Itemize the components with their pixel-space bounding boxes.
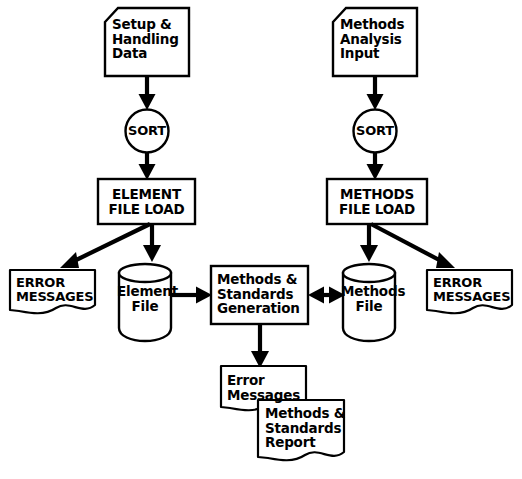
arrowhead-element-file-to-generation <box>196 287 212 304</box>
edge-methods-file-load-to-error-messages-right <box>371 224 443 262</box>
shape-sort-left <box>126 110 169 153</box>
arrowhead-methods-file-load-to-error-messages-right <box>436 252 455 268</box>
arrowhead-input-to-sort-right <box>367 94 384 110</box>
shape-methods-standards-generation <box>211 266 308 324</box>
shape-methods-file-load <box>327 179 427 224</box>
shape-element-file-cylinder-top <box>119 264 171 282</box>
arrowhead-generation-to-methods-file-left <box>308 287 324 304</box>
arrowhead-sort-right-to-methods-file-load <box>367 164 384 180</box>
shape-methods-analysis-input <box>333 8 417 76</box>
arrowhead-sort-left-to-element-file-load <box>139 164 156 180</box>
shape-methods-file-cylinder-body <box>343 273 395 341</box>
arrowhead-element-file-load-to-error-messages-left <box>60 252 79 268</box>
shape-error-messages-right <box>427 270 512 313</box>
edge-element-file-load-to-error-messages-left <box>72 224 150 262</box>
shape-element-file-load <box>98 179 195 224</box>
shape-methods-file-cylinder-top <box>343 264 395 282</box>
arrowhead-methods-file-load-to-methods-file <box>360 245 378 262</box>
shape-sort-right <box>354 110 397 153</box>
flowchart-diagram: Setup & Handling Data SORT ELEMENT FILE … <box>0 0 522 479</box>
shape-error-messages-left <box>10 270 95 313</box>
shape-methods-standards-report <box>258 400 344 460</box>
flowchart-canvas <box>0 0 522 479</box>
arrowhead-element-file-load-to-element-file <box>143 245 161 262</box>
arrowhead-setup-to-sort-left <box>139 94 156 110</box>
shape-setup-handling-data <box>105 8 189 76</box>
shape-element-file-cylinder-body <box>119 273 171 341</box>
